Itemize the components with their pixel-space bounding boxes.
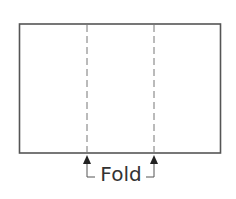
arrow-up-icon [146,155,158,177]
arrow-up-icon [83,155,95,177]
fold-label: Fold [98,162,144,186]
paper-rectangle [20,24,221,153]
fold-diagram: Fold [0,0,236,199]
